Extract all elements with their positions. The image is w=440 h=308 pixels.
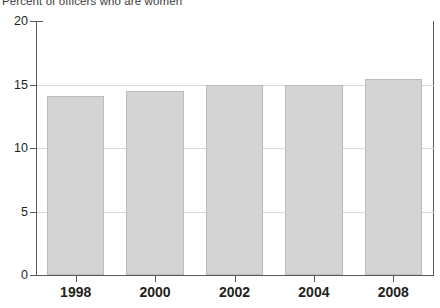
x-tick-label-2008: 2008 [378,284,409,300]
y-tick-label-20: 20 [14,15,28,27]
y-axis-top-cap [36,21,43,22]
x-tick-mark-2008 [393,275,394,282]
x-tick-label-1998: 1998 [60,284,91,300]
x-tick-label-2004: 2004 [298,284,329,300]
y-tick-mark-10 [30,148,37,149]
bar-2002 [206,85,264,276]
y-tick-label-15: 15 [14,79,28,91]
y-tick-mark-0 [30,275,37,276]
x-tick-mark-1998 [76,275,77,282]
y-tick-mark-15 [30,85,37,86]
bar-2004 [285,85,343,276]
x-tick-label-2002: 2002 [219,284,250,300]
chart-title: Percent of officers who are women [2,0,182,8]
bar-chart: Percent of officers who are women 051015… [0,0,440,308]
plot-area [36,21,433,275]
x-tick-mark-2002 [235,275,236,282]
x-tick-label-2000: 2000 [140,284,171,300]
y-tick-label-10: 10 [14,142,28,154]
bar-2008 [365,79,423,275]
bar-2000 [126,91,184,275]
x-axis-labels: 19982000200220042008 [36,284,434,304]
y-tick-mark-20 [30,21,37,22]
y-tick-label-5: 5 [21,206,28,218]
y-tick-mark-5 [30,212,37,213]
x-tick-mark-2004 [314,275,315,282]
x-tick-mark-2000 [155,275,156,282]
y-axis-labels: 05101520 [0,21,28,275]
bar-1998 [47,96,105,275]
y-tick-label-0: 0 [21,269,28,281]
